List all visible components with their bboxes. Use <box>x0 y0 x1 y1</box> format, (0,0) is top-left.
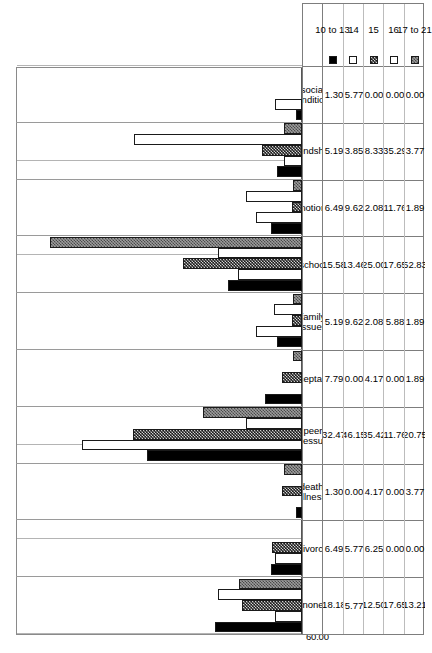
table-row <box>323 67 343 634</box>
legend-swatch <box>370 56 378 64</box>
bar-group <box>16 236 302 293</box>
bar <box>275 611 303 622</box>
legend-item[interactable]: 15 <box>364 4 384 67</box>
bar <box>256 212 302 223</box>
bar <box>265 394 302 405</box>
legend: 10 to 1314151617 to 21 <box>302 3 424 67</box>
bar <box>82 440 302 451</box>
legend-label-wrap: 15 <box>364 4 383 56</box>
plot-area <box>16 67 302 635</box>
bar <box>203 407 302 418</box>
bar-group <box>16 180 302 237</box>
legend-label-wrap: 10 to 13 <box>323 4 342 56</box>
bar <box>262 145 302 156</box>
table-row <box>364 67 384 634</box>
table-row <box>384 67 404 634</box>
bar <box>272 542 302 553</box>
table-row <box>344 67 364 634</box>
bar-group <box>16 577 302 634</box>
legend-label: 17 to 21 <box>398 25 432 36</box>
bar <box>275 553 303 564</box>
legend-item[interactable]: 10 to 13 <box>323 4 343 67</box>
bar <box>147 450 302 461</box>
bar <box>242 600 302 611</box>
legend-label-wrap: 14 <box>344 4 363 56</box>
legend-swatch <box>411 56 419 64</box>
bar <box>256 326 302 337</box>
legend-swatch <box>349 56 357 64</box>
table-row <box>405 67 425 634</box>
bar-group <box>16 464 302 521</box>
legend-swatch <box>329 56 337 64</box>
bar <box>282 372 302 383</box>
bar <box>284 464 302 475</box>
bar <box>215 622 302 633</box>
bar <box>183 258 302 269</box>
bar <box>284 156 302 167</box>
bar <box>275 99 303 110</box>
bar <box>293 180 302 191</box>
legend-spacer <box>303 4 323 67</box>
bar <box>292 315 302 326</box>
bar <box>293 294 302 305</box>
bar <box>239 579 302 590</box>
bar <box>246 191 302 202</box>
bar <box>293 351 302 362</box>
bar-group <box>16 520 302 577</box>
table-row <box>303 67 323 634</box>
bar <box>134 134 302 145</box>
bar <box>228 280 302 291</box>
legend-label-wrap: 17 to 21 <box>405 4 425 56</box>
bar <box>282 486 302 497</box>
legend-item[interactable]: 16 <box>384 4 404 67</box>
bar <box>218 589 302 600</box>
bar <box>271 564 302 575</box>
bar-group <box>16 407 302 464</box>
bar <box>246 418 302 429</box>
legend-label: 14 <box>348 25 359 36</box>
data-table: none18.185.7712.5017.6513.21divorce6.495… <box>302 67 424 635</box>
bar <box>277 166 302 177</box>
bar-group <box>16 66 302 123</box>
bar <box>218 248 302 259</box>
bar <box>274 304 302 315</box>
legend-item[interactable]: 14 <box>344 4 364 67</box>
bar <box>277 337 302 348</box>
legend-item[interactable]: 17 to 21 <box>405 4 425 67</box>
bar-group <box>16 350 302 407</box>
bar <box>271 223 302 234</box>
bar <box>284 123 302 134</box>
bar <box>292 202 302 213</box>
bar <box>133 429 302 440</box>
bar-group <box>16 293 302 350</box>
bar <box>238 269 302 280</box>
bar <box>50 237 302 248</box>
bar-group <box>16 123 302 180</box>
legend-label: 15 <box>368 25 379 36</box>
legend-swatch <box>390 56 398 64</box>
